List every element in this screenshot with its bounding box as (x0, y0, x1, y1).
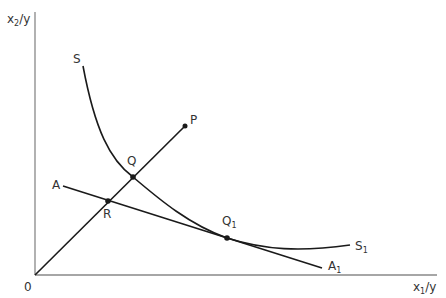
label-q: Q (127, 154, 136, 168)
point-q (130, 174, 136, 180)
label-a1: A1 (328, 259, 341, 275)
point-r (105, 198, 111, 204)
origin-label: 0 (24, 280, 32, 294)
label-q1: Q1 (222, 214, 237, 230)
point-p (183, 124, 188, 129)
line-a-a1 (63, 186, 322, 268)
label-s: S (73, 52, 81, 66)
label-r: R (103, 207, 111, 221)
y-axis-label: x2/y (7, 12, 30, 28)
isoquant-diagram: x2/y x1/y 0 P S S1 A A1 Q R Q1 (0, 0, 446, 298)
label-s1: S1 (355, 239, 368, 255)
isoquant-curve (83, 66, 350, 249)
label-a: A (52, 178, 61, 192)
label-p: P (190, 113, 197, 127)
point-q1 (224, 235, 230, 241)
x-axis-label: x1/y (413, 280, 436, 296)
